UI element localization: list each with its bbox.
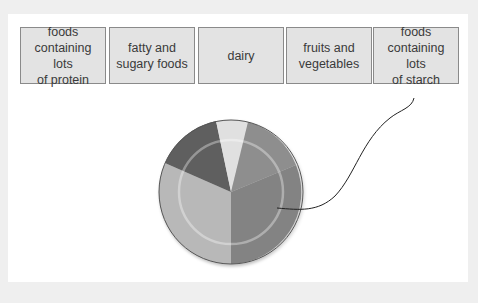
plate bbox=[159, 120, 303, 264]
plate-diagram bbox=[0, 0, 478, 303]
